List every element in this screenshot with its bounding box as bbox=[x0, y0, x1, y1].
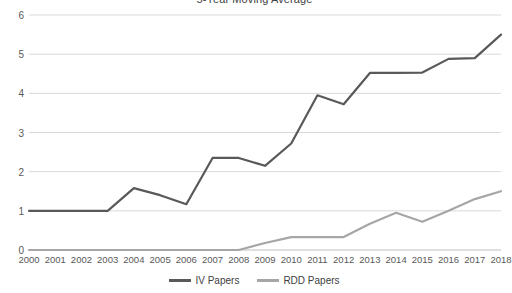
series-line-rdd-papers bbox=[29, 191, 501, 250]
x-axis-tick-label: 2011 bbox=[307, 254, 327, 265]
y-axis-tick-label: 3 bbox=[2, 127, 24, 138]
legend-item-iv-papers[interactable]: IV Papers bbox=[169, 275, 239, 286]
x-axis-tick-label: 2009 bbox=[254, 254, 275, 265]
x-axis-tick-label: 2018 bbox=[490, 254, 511, 265]
x-axis-tick-label: 2015 bbox=[412, 254, 433, 265]
x-axis-tick-label: 2002 bbox=[71, 254, 92, 265]
x-axis-tick-label: 2013 bbox=[359, 254, 380, 265]
x-axis-tick-label: 2004 bbox=[123, 254, 144, 265]
y-axis-tick-label: 2 bbox=[2, 166, 24, 177]
x-axis-tick-label: 2016 bbox=[438, 254, 459, 265]
x-axis-tick-label: 2000 bbox=[18, 254, 39, 265]
x-axis-tick-label: 2014 bbox=[386, 254, 407, 265]
x-axis-tick-label: 2012 bbox=[333, 254, 354, 265]
y-axis-tick-label: 5 bbox=[2, 49, 24, 60]
x-axis-tick-label: 2008 bbox=[228, 254, 249, 265]
chart-legend: IV PapersRDD Papers bbox=[0, 275, 509, 286]
legend-swatch bbox=[257, 279, 279, 282]
x-axis-tick-label: 2007 bbox=[202, 254, 223, 265]
legend-label: RDD Papers bbox=[283, 275, 339, 286]
x-axis-tick-label: 2001 bbox=[45, 254, 66, 265]
x-axis-tick-label: 2005 bbox=[150, 254, 171, 265]
y-axis-tick-label: 6 bbox=[2, 10, 24, 21]
legend-label: IV Papers bbox=[195, 275, 239, 286]
x-axis-tick-label: 2003 bbox=[97, 254, 118, 265]
x-axis-tick-label: 2006 bbox=[176, 254, 197, 265]
y-axis-tick-label: 4 bbox=[2, 88, 24, 99]
legend-swatch bbox=[169, 279, 191, 282]
series-line-iv-papers bbox=[29, 35, 501, 211]
legend-item-rdd-papers[interactable]: RDD Papers bbox=[257, 275, 339, 286]
x-axis-tick-label: 2010 bbox=[281, 254, 302, 265]
y-axis-tick-label: 1 bbox=[2, 205, 24, 216]
x-axis-tick-label: 2017 bbox=[464, 254, 485, 265]
